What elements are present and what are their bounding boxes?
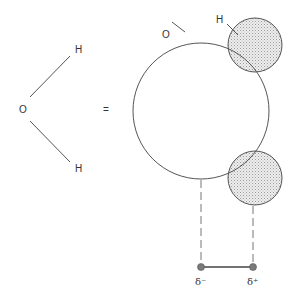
delta-minus-label: δ⁻: [195, 276, 206, 287]
equals-sign: =: [103, 104, 109, 115]
structural-formula: O H H: [19, 44, 82, 174]
hydrogen-atom-label: H: [216, 14, 223, 25]
oxygen-pointer: [172, 22, 185, 32]
negative-pole-dot: [198, 264, 205, 271]
bond-top: [30, 56, 70, 97]
delta-plus-label: δ⁺: [247, 276, 258, 287]
hydrogen-bottom-label: H: [75, 163, 82, 174]
hydrogen-atom-top: [228, 18, 282, 72]
bond-bottom: [30, 121, 70, 162]
positive-pole-dot: [250, 264, 257, 271]
hydrogen-top-label: H: [75, 44, 82, 55]
space-filling-model: O H: [133, 14, 282, 205]
water-dipole-diagram: O H H = O H δ⁻ δ⁺: [0, 0, 299, 301]
hydrogen-atom-bottom: [228, 151, 282, 205]
oxygen-label: O: [19, 104, 27, 115]
oxygen-atom-label: O: [162, 29, 170, 40]
